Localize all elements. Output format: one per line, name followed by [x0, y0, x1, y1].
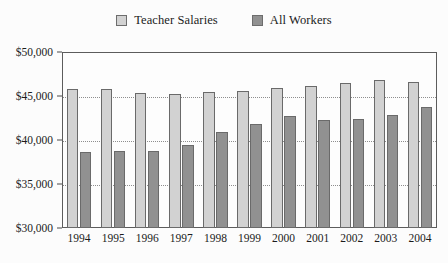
bar-1999-series2 — [250, 124, 262, 228]
bar-2002-series1 — [340, 83, 352, 228]
y-axis-label: $40,000 — [16, 134, 53, 146]
bar-group — [135, 52, 160, 228]
x-axis-label: 1997 — [170, 232, 193, 245]
x-axis-label: 1998 — [204, 232, 227, 245]
bar-group — [67, 52, 92, 228]
bar-2004-series2 — [421, 107, 433, 228]
bar-1997-series2 — [182, 145, 194, 228]
bar-group — [101, 52, 126, 228]
bar-group — [340, 52, 365, 228]
x-axis-label: 2002 — [340, 232, 363, 245]
bar-2000-series1 — [271, 88, 283, 228]
bar-1994-series2 — [80, 152, 92, 228]
y-axis-label: $50,000 — [16, 46, 53, 58]
x-axis-label: 2003 — [374, 232, 397, 245]
x-axis-label: 1999 — [238, 232, 261, 245]
bar-1996-series1 — [135, 93, 147, 228]
legend-item-2: All Workers — [252, 14, 332, 27]
bar-1999-series1 — [237, 91, 249, 228]
x-axis-label: 1994 — [68, 232, 91, 245]
y-axis-label: $30,000 — [16, 222, 53, 234]
bar-group — [237, 52, 262, 228]
x-axis-label: 1995 — [102, 232, 125, 245]
legend-swatch-icon — [252, 15, 263, 26]
bar-1995-series1 — [101, 89, 113, 228]
x-axis-label: 2001 — [306, 232, 329, 245]
bar-chart: Teacher SalariesAll Workers $30,000$35,0… — [0, 0, 448, 263]
bar-1995-series2 — [114, 151, 126, 228]
y-axis-label: $35,000 — [16, 178, 53, 190]
bar-1994-series1 — [67, 89, 79, 228]
x-axis-label: 1996 — [136, 232, 159, 245]
chart-legend: Teacher SalariesAll Workers — [0, 14, 448, 27]
bar-group — [374, 52, 399, 228]
bar-group — [408, 52, 433, 228]
bar-1998-series2 — [216, 132, 228, 228]
bar-group — [271, 52, 296, 228]
bar-1997-series1 — [169, 94, 181, 228]
x-axis-label: 2000 — [272, 232, 295, 245]
bar-group — [305, 52, 330, 228]
legend-swatch-icon — [116, 15, 127, 26]
legend-label: Teacher Salaries — [134, 14, 218, 27]
legend-label: All Workers — [270, 14, 332, 27]
bar-1998-series1 — [203, 92, 215, 228]
x-axis-label: 2004 — [408, 232, 431, 245]
bar-2003-series2 — [387, 115, 399, 228]
y-axis: $30,000$35,000$40,000$45,000$50,000 — [0, 0, 62, 263]
bars-layer — [62, 52, 437, 228]
bar-2000-series2 — [284, 116, 296, 228]
bar-group — [169, 52, 194, 228]
x-axis: 1994199519961997199819992000200120022003… — [62, 232, 437, 252]
legend-item-1: Teacher Salaries — [116, 14, 218, 27]
bar-2001-series1 — [305, 86, 317, 228]
bar-1996-series2 — [148, 151, 160, 228]
bar-2001-series2 — [318, 120, 330, 228]
y-axis-label: $45,000 — [16, 90, 53, 102]
bar-group — [203, 52, 228, 228]
bar-2004-series1 — [408, 82, 420, 228]
bar-2003-series1 — [374, 80, 386, 228]
bar-2002-series2 — [353, 119, 365, 228]
